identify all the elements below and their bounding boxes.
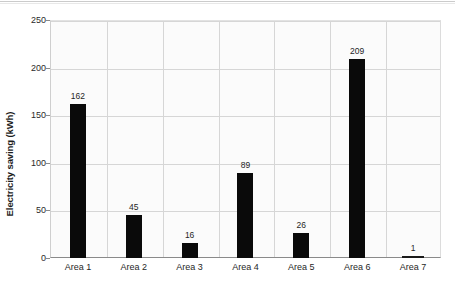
bar-chart-figure: Electricity saving (kWh) 050100150200250… xyxy=(0,0,455,293)
x-axis-tick-label: Area 3 xyxy=(162,262,218,272)
vertical-gridline xyxy=(330,21,331,257)
plot-area xyxy=(50,20,441,258)
horizontal-gridline xyxy=(51,69,440,70)
vertical-gridline xyxy=(163,21,164,257)
x-axis-tick-label: Area 6 xyxy=(329,262,385,272)
horizontal-gridline xyxy=(51,116,440,117)
y-axis-tick-label: 0 xyxy=(2,253,46,263)
vertical-gridline xyxy=(107,21,108,257)
x-axis-tick-labels: Area 1Area 2Area 3Area 4Area 5Area 6Area… xyxy=(50,262,441,278)
gridlines xyxy=(51,21,440,257)
x-axis-tick-label: Area 4 xyxy=(218,262,274,272)
y-axis-tick-mark xyxy=(46,258,50,259)
scan-artifact-line-secondary xyxy=(0,3,455,4)
horizontal-gridline xyxy=(51,211,440,212)
y-axis-tick-label: 200 xyxy=(2,63,46,73)
horizontal-gridline xyxy=(51,164,440,165)
y-axis-tick-label: 50 xyxy=(2,205,46,215)
x-axis-tick-label: Area 1 xyxy=(50,262,106,272)
vertical-gridline xyxy=(386,21,387,257)
y-axis-tick-label: 100 xyxy=(2,158,46,168)
horizontal-gridline xyxy=(51,21,440,22)
x-axis-tick-label: Area 7 xyxy=(385,262,441,272)
scan-artifact-line xyxy=(0,1,455,2)
vertical-gridline xyxy=(219,21,220,257)
x-axis-tick-label: Area 5 xyxy=(273,262,329,272)
vertical-gridline xyxy=(274,21,275,257)
y-axis-tick-labels: 050100150200250 xyxy=(0,20,46,258)
y-axis-tick-label: 250 xyxy=(2,15,46,25)
x-axis-tick-label: Area 2 xyxy=(106,262,162,272)
y-axis-tick-label: 150 xyxy=(2,110,46,120)
